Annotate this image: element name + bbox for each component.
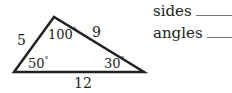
sides-answer-blank[interactable] — [196, 3, 232, 16]
angles-question: angles — [153, 25, 232, 41]
side-label-left: 5 — [17, 33, 26, 47]
side-label-bottom: 12 — [74, 76, 92, 90]
angles-answer-blank[interactable] — [207, 25, 232, 38]
angle-label-bottom-right: 30° — [104, 57, 125, 70]
side-label-right: 9 — [92, 25, 101, 39]
sides-question: sides — [153, 3, 232, 19]
sides-label: sides — [153, 2, 192, 20]
angle-label-bottom-left: 50° — [28, 57, 49, 70]
angles-label: angles — [153, 24, 203, 42]
angle-label-top: 100° — [48, 28, 77, 41]
